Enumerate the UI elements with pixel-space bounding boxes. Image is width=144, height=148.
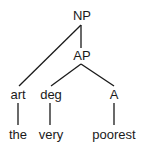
node-np: NP <box>73 9 91 23</box>
node-deg: deg <box>40 88 62 102</box>
syntax-tree: NP AP art deg A the very poorest <box>0 0 144 148</box>
node-art: art <box>10 88 25 102</box>
leaf-very: very <box>39 128 64 142</box>
edge-ap-deg <box>51 64 81 86</box>
edge-ap-a <box>81 64 114 86</box>
leaf-the: the <box>9 128 27 142</box>
node-a: A <box>110 88 119 102</box>
leaf-poorest: poorest <box>92 128 135 142</box>
edge-np-art <box>19 25 81 86</box>
node-ap: AP <box>73 49 90 63</box>
